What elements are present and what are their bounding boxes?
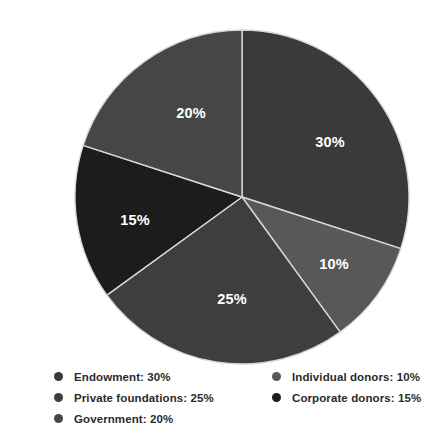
legend-swatch-circle-icon bbox=[54, 414, 63, 423]
legend-item[interactable]: Corporate donors: 15% bbox=[272, 387, 426, 408]
legend-item-label: Government: 20% bbox=[74, 413, 173, 425]
legend-item[interactable]: Individual donors: 10% bbox=[272, 366, 426, 387]
legend-swatch-circle-icon bbox=[272, 393, 281, 402]
chart-legend: Endowment: 30%Private foundations: 25%Go… bbox=[40, 366, 426, 427]
pie-slice-label-corporate-donors: 15% bbox=[120, 212, 150, 228]
pie-slice-label-private-foundations: 25% bbox=[217, 291, 247, 307]
pie-slice-label-government: 20% bbox=[176, 105, 206, 121]
legend-item-label: Corporate donors: 15% bbox=[292, 392, 421, 404]
legend-item[interactable]: Government: 20% bbox=[54, 408, 269, 427]
legend-item-label: Endowment: 30% bbox=[74, 371, 171, 383]
legend-item[interactable]: Endowment: 30% bbox=[54, 366, 269, 387]
legend-column-right: Individual donors: 10%Corporate donors: … bbox=[272, 366, 426, 408]
legend-item-label: Private foundations: 25% bbox=[74, 392, 214, 404]
legend-column-left: Endowment: 30%Private foundations: 25%Go… bbox=[54, 366, 269, 427]
pie-slice-label-individual-donors: 10% bbox=[319, 256, 349, 272]
legend-item-label: Individual donors: 10% bbox=[292, 371, 420, 383]
legend-swatch-circle-icon bbox=[54, 372, 63, 381]
legend-swatch-circle-icon bbox=[272, 372, 281, 381]
pie-slice-group bbox=[75, 30, 409, 364]
legend-item[interactable]: Private foundations: 25% bbox=[54, 387, 269, 408]
pie-chart-figure: 30%10%25%15%20% Endowment: 30%Private fo… bbox=[40, 16, 426, 427]
pie-chart-area: 30%10%25%15%20% bbox=[40, 16, 426, 366]
pie-slice-label-endowment: 30% bbox=[315, 134, 345, 150]
pie-chart-svg: 30%10%25%15%20% bbox=[40, 16, 426, 366]
legend-swatch-circle-icon bbox=[54, 393, 63, 402]
